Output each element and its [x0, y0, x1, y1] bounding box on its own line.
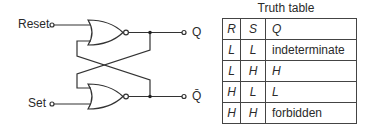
header-r: R — [223, 19, 241, 40]
cell-r: H — [223, 103, 241, 124]
truth-table-title: Truth table — [222, 1, 350, 15]
nor-bubble-top — [124, 30, 129, 35]
junction-dot-q — [148, 31, 152, 35]
nor-gate-top — [88, 20, 123, 45]
reset-input-terminal — [50, 23, 54, 27]
set-label: Set — [28, 96, 46, 110]
cell-q: forbidden — [266, 103, 357, 124]
table-header-row: R S Q — [223, 19, 357, 40]
cell-q: H — [266, 61, 357, 82]
table-row: L H H — [223, 61, 357, 82]
cell-q: L — [266, 82, 357, 103]
cell-s: H — [241, 61, 266, 82]
header-s: S — [241, 19, 266, 40]
cell-s: L — [241, 40, 266, 61]
cell-r: L — [223, 61, 241, 82]
cell-r: H — [223, 82, 241, 103]
cell-r: L — [223, 40, 241, 61]
set-input-terminal — [50, 102, 54, 106]
reset-label: Reset — [18, 17, 49, 31]
q-bar-output-label: Q̄ — [192, 89, 201, 103]
q-output-label: Q — [192, 25, 201, 39]
q-bar-output-terminal — [182, 95, 186, 99]
table-row: H L L — [223, 82, 357, 103]
nor-gate-bottom — [88, 84, 123, 109]
nor-bubble-bottom — [124, 94, 129, 99]
cell-s: L — [241, 82, 266, 103]
junction-dot-q-bar — [148, 95, 152, 99]
table-row: L L indeterminate — [223, 40, 357, 61]
cell-s: H — [241, 103, 266, 124]
header-q: Q — [266, 19, 357, 40]
table-row: H H forbidden — [223, 103, 357, 124]
truth-table: R S Q L L indeterminate L H H H L L H H … — [222, 18, 357, 124]
cell-q: indeterminate — [266, 40, 357, 61]
q-output-terminal — [182, 31, 186, 35]
